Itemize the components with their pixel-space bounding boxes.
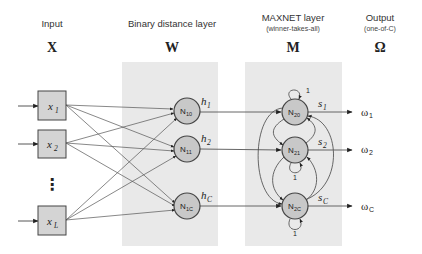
sC-label: s — [318, 191, 322, 203]
maxnet-column-subtitle: (winner-takes-all) — [266, 25, 320, 33]
output-symbol: Ω — [374, 40, 385, 55]
svg-text:ω: ω — [361, 200, 368, 212]
s1-label: s — [318, 97, 322, 109]
maxnet-symbol: M — [286, 40, 299, 55]
maxnet-column-title: MAXNET layer — [262, 12, 325, 23]
distance-node-N10: N 10 — [174, 98, 200, 124]
svg-text:10: 10 — [186, 111, 192, 117]
maxnet-node-N2C: N 2C — [282, 193, 308, 219]
distance-symbol: W — [165, 40, 179, 55]
input-symbol: X — [47, 40, 57, 55]
ellipsis: ⋮ — [44, 175, 60, 194]
svg-text:x: x — [46, 138, 52, 150]
svg-text:2C: 2C — [294, 206, 301, 212]
self-loop-weight-N20: 1 — [306, 87, 310, 94]
svg-text:L: L — [53, 221, 58, 230]
s2-label: s — [318, 135, 322, 147]
svg-text:20: 20 — [294, 112, 300, 118]
hamming-network-diagram: Input X Binary distance layer W MAXNET l… — [0, 0, 422, 254]
distance-layer-panel — [122, 62, 218, 246]
svg-text:1: 1 — [55, 106, 59, 115]
distance-column-title: Binary distance layer — [128, 18, 216, 29]
s1-subscript: 1 — [323, 103, 327, 112]
output-column-title: Output — [366, 12, 395, 23]
output-omega-C: ω C — [361, 200, 374, 213]
svg-text:C: C — [369, 206, 374, 213]
input-node-x2: x 2 — [38, 130, 66, 158]
svg-text:x: x — [47, 100, 53, 112]
svg-text:ω: ω — [361, 106, 368, 118]
self-loop-weight-N2C: 1 — [293, 230, 297, 237]
self-loop-weight-N21: 1 — [293, 174, 297, 181]
maxnet-node-N21: N 21 — [282, 137, 308, 163]
output-omega-2: ω 2 — [361, 143, 373, 156]
input-node-x1: x 1 — [38, 91, 66, 120]
distance-node-N11: N 11 — [174, 136, 200, 162]
svg-text:11: 11 — [186, 149, 192, 155]
distance-node-N1C: N 1C — [174, 193, 200, 219]
input-node-xL: x L — [38, 206, 66, 235]
svg-text:ω: ω — [361, 143, 368, 155]
h1-subscript: 1 — [207, 101, 211, 110]
output-column-subtitle: (one-of-C) — [364, 25, 396, 33]
svg-text:2: 2 — [54, 144, 58, 153]
svg-text:x: x — [46, 215, 52, 227]
svg-text:1: 1 — [369, 112, 373, 119]
svg-text:21: 21 — [294, 150, 300, 156]
input-column-title: Input — [41, 18, 62, 29]
output-omega-1: ω 1 — [361, 106, 373, 119]
maxnet-node-N20: N 20 — [282, 99, 308, 125]
s2-subscript: 2 — [323, 141, 327, 150]
h2-subscript: 2 — [207, 138, 211, 147]
svg-text:2: 2 — [369, 149, 373, 156]
svg-text:1C: 1C — [186, 206, 193, 212]
